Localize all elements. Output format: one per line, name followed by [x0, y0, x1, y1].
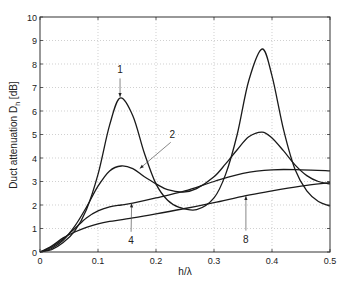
y-tick-label: 2: [32, 201, 37, 211]
y-tick-label: 7: [32, 83, 37, 93]
curve-label-4: 4: [128, 235, 134, 246]
data-series: [40, 49, 330, 252]
curve-label-8: 8: [243, 234, 249, 245]
y-tick-label: 4: [32, 154, 37, 164]
arrowhead-icon: [118, 93, 121, 97]
y-tick-label: 6: [32, 107, 37, 117]
x-tick-label: 0: [37, 256, 42, 266]
y-tick-label: 0: [32, 248, 37, 258]
x-tick-label: 0.2: [150, 256, 163, 266]
annotation-arrow-2: [140, 142, 171, 168]
series-line-4: [40, 169, 330, 252]
x-tick-label: 0.3: [208, 256, 221, 266]
y-tick-label: 1: [32, 224, 37, 234]
x-tick-label: 0.5: [324, 256, 337, 266]
y-tick-label: 9: [32, 36, 37, 46]
x-axis-label: h/λ: [178, 266, 191, 277]
curve-annotations: 1248: [117, 64, 249, 245]
annotation-arrow-4: [131, 203, 132, 231]
curve-label-2: 2: [169, 129, 175, 140]
y-tick-label: 3: [32, 177, 37, 187]
y-tick-label: 8: [32, 60, 37, 70]
y-axis-label: Duct attenuation Dh [dB]: [8, 81, 21, 189]
x-tick-label: 0.4: [266, 256, 279, 266]
x-tick-label: 0.1: [92, 256, 105, 266]
curve-label-1: 1: [117, 64, 123, 75]
series-line-1: [40, 49, 330, 252]
y-tick-label: 5: [32, 130, 37, 140]
series-line-2: [40, 132, 330, 252]
line-chart: 1248 00.10.20.30.40.5012345678910 h/λ Du…: [0, 0, 350, 286]
arrowhead-icon: [244, 196, 247, 200]
y-tick-label: 10: [27, 13, 37, 23]
